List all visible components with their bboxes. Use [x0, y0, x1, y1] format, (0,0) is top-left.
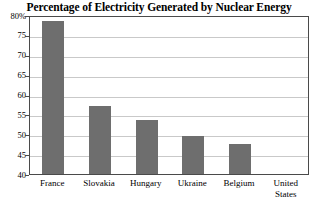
y-tick-label: 55 — [0, 111, 26, 120]
x-tick-label-france: France — [29, 178, 76, 189]
y-tick-label: 60 — [0, 91, 26, 100]
bar-slot — [30, 17, 77, 174]
y-tick-label: 65 — [0, 71, 26, 80]
y-tick-label: 50 — [0, 131, 26, 140]
bar-slot — [217, 17, 264, 174]
x-tick-label-belgium: Belgium — [216, 178, 263, 189]
bars-group — [30, 17, 308, 174]
chart-title: Percentage of Electricity Generated by N… — [0, 1, 318, 14]
y-tick-label: 80% — [0, 12, 26, 21]
bar-hungary[interactable] — [136, 120, 158, 174]
y-tick-label: 45 — [0, 151, 26, 160]
bar-france[interactable] — [42, 21, 64, 174]
x-tick-label-ukraine: Ukraine — [169, 178, 216, 189]
y-tick-label: 70 — [0, 51, 26, 60]
y-tick-label: 75 — [0, 31, 26, 40]
y-tick-label: 40 — [0, 171, 26, 180]
bar-slot — [77, 17, 124, 174]
bar-slovakia[interactable] — [89, 106, 111, 174]
x-tick-label-slovakia: Slovakia — [76, 178, 123, 189]
bar-slot — [263, 17, 310, 174]
x-tick-label-hungary: Hungary — [122, 178, 169, 189]
y-tick-mark — [25, 175, 29, 176]
plot-area — [29, 16, 309, 175]
bar-ukraine[interactable] — [182, 136, 204, 174]
x-tick-label-united-states: United States — [262, 178, 309, 200]
bar-chart-figure: Percentage of Electricity Generated by N… — [0, 0, 318, 209]
x-axis: FranceSlovakiaHungaryUkraineBelgiumUnite… — [29, 178, 309, 209]
bar-belgium[interactable] — [229, 144, 251, 174]
bar-slot — [170, 17, 217, 174]
bar-slot — [123, 17, 170, 174]
